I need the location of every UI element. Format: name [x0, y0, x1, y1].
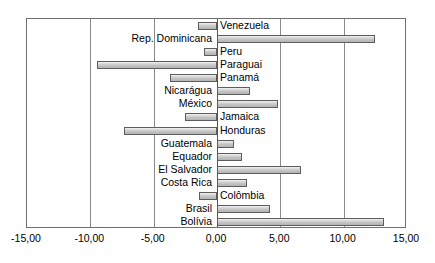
bar-label-m-xico: México [179, 98, 212, 109]
bar-label-jamaica: Jamaica [220, 111, 259, 122]
bar-row: El Salvador [27, 163, 405, 176]
x-tick-label: 15,00 [393, 232, 419, 244]
bar-row: Bolívia [27, 216, 405, 229]
bar-row: Colômbia [27, 190, 405, 203]
x-tick-label: -15,00 [11, 232, 41, 244]
bar-rows: VenezuelaRep. DominicanaPeruParaguaiPana… [27, 19, 405, 227]
bar-m-xico [217, 100, 278, 108]
bar-brasil [217, 205, 270, 213]
bar-label-honduras: Honduras [220, 125, 266, 136]
bar-chart: VenezuelaRep. DominicanaPeruParaguaiPana… [0, 0, 435, 263]
bar-label-guatemala: Guatemala [161, 138, 212, 149]
bar-costa-rica [217, 179, 247, 187]
bar-bol-via [217, 218, 384, 226]
bar-el-salvador [217, 166, 301, 174]
bar-guatemala [217, 140, 234, 148]
bar-label-peru: Peru [220, 46, 242, 57]
bar-label-nicar-gua: Nicarágua [164, 85, 212, 96]
bar-venezuela [198, 22, 217, 30]
bar-label-el-salvador: El Salvador [158, 164, 212, 175]
bar-label-equador: Equador [172, 151, 212, 162]
x-tick-label: 5,00 [269, 232, 289, 244]
bar-equador [217, 153, 242, 161]
bar-paraguai [97, 61, 217, 69]
bar-label-rep-dominicana: Rep. Dominicana [131, 33, 212, 44]
bar-label-panam-: Panamá [220, 72, 259, 83]
bar-row: Honduras [27, 124, 405, 137]
bar-label-bol-via: Bolívia [180, 216, 212, 227]
bar-row: Equador [27, 150, 405, 163]
bar-row: Paraguai [27, 58, 405, 71]
x-tick-label: -5,00 [141, 232, 165, 244]
bar-row: México [27, 98, 405, 111]
bar-label-brasil: Brasil [186, 203, 212, 214]
bar-row: Panamá [27, 72, 405, 85]
bar-row: Venezuela [27, 19, 405, 32]
bar-jamaica [185, 113, 217, 121]
x-tick-label: 10,00 [330, 232, 356, 244]
bar-peru [204, 48, 217, 56]
bar-row: Costa Rica [27, 177, 405, 190]
bar-rep-dominicana [217, 35, 375, 43]
x-tick-label: 0,00 [206, 232, 226, 244]
plot-area: VenezuelaRep. DominicanaPeruParaguaiPana… [26, 18, 406, 228]
bar-row: Jamaica [27, 111, 405, 124]
bar-row: Peru [27, 45, 405, 58]
bar-panam- [170, 74, 217, 82]
bar-col-mbia [199, 192, 217, 200]
bar-nicar-gua [217, 87, 250, 95]
bar-row: Rep. Dominicana [27, 32, 405, 45]
bar-row: Nicarágua [27, 85, 405, 98]
bar-row: Guatemala [27, 137, 405, 150]
bar-label-venezuela: Venezuela [220, 20, 269, 31]
bar-label-col-mbia: Colômbia [220, 190, 264, 201]
x-axis: -15,00-10,00-5,000,005,0010,0015,00 [0, 232, 435, 252]
bar-label-costa-rica: Costa Rica [161, 177, 212, 188]
bar-label-paraguai: Paraguai [220, 59, 262, 70]
bar-honduras [124, 127, 217, 135]
bar-row: Brasil [27, 203, 405, 216]
x-tick-label: -10,00 [74, 232, 104, 244]
